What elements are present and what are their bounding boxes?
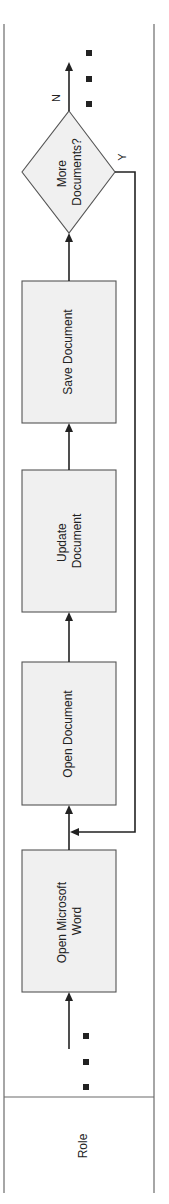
step-update-document: Update Document [22, 470, 116, 612]
yes-label: Y [116, 153, 128, 161]
step-label-line: Update [55, 523, 69, 562]
arrowhead-icon [65, 805, 73, 814]
process-flow-diagram: Role Open Microsoft Word Open Document U… [0, 0, 169, 1204]
decision-label-line: Documents? [70, 138, 84, 206]
step-label: Open Document [61, 690, 75, 778]
step-label-line: Open Microsoft [55, 881, 69, 963]
step-save-document: Save Document [22, 281, 116, 423]
decision-more-documents: More Documents? [22, 111, 115, 233]
svg-text:Update Document: Update Document [55, 513, 84, 568]
arrowhead-icon [65, 233, 73, 242]
step-open-microsoft-word: Open Microsoft Word [22, 850, 116, 992]
step-open-document: Open Document [22, 662, 116, 805]
arrowhead-icon [65, 992, 73, 1001]
step-label: Save Document [61, 309, 75, 395]
no-label: N [50, 94, 62, 102]
step-label-line: Document [70, 513, 84, 568]
decision-label-line: More [55, 160, 69, 188]
arrowhead-icon [65, 612, 73, 621]
role-label: Role [76, 1133, 90, 1158]
start-continuation-dots [83, 1033, 89, 1090]
end-continuation-dots [86, 50, 92, 107]
arrowhead-icon [65, 423, 73, 432]
step-label-line: Word [70, 907, 84, 935]
arrowhead-icon [70, 828, 79, 836]
arrowhead-icon [65, 62, 73, 71]
